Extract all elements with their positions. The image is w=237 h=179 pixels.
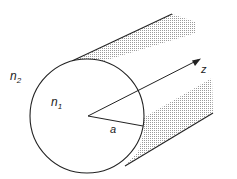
outer-index-label: n2 bbox=[10, 69, 22, 85]
axis-label: z bbox=[200, 63, 207, 75]
fiber-diagram: n2 n1 a z bbox=[0, 0, 237, 179]
top-shading bbox=[72, 14, 196, 62]
radius-label: a bbox=[110, 123, 116, 135]
core-cross-section bbox=[30, 59, 144, 173]
